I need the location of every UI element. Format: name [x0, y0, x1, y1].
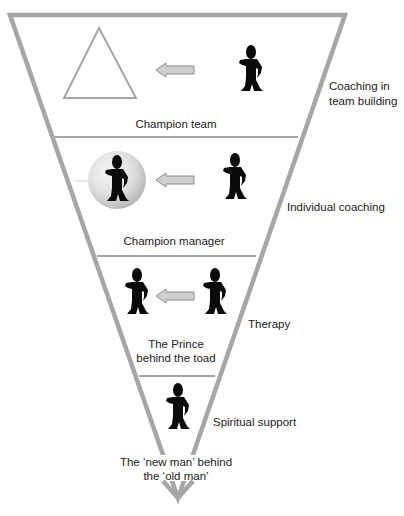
level-1-side-label-line2: team building	[329, 94, 397, 108]
level-3-caption-line1: The Prince	[148, 337, 204, 351]
person-icon	[203, 268, 227, 314]
level-1-caption: Champion team	[135, 117, 216, 131]
inverted-triangle-diagram	[0, 0, 404, 516]
level-4-side-label: Spiritual support	[213, 415, 296, 429]
team-triangle-icon	[64, 28, 136, 98]
level-3-side-label: Therapy	[248, 317, 290, 331]
level-3-caption-line2: behind the toad	[136, 351, 215, 365]
level-4-caption-line1: The ‘new man’ behind	[120, 455, 232, 469]
arrow-left-icon	[156, 63, 194, 77]
person-in-sphere-icon	[74, 151, 146, 209]
arrow-left-icon	[156, 173, 194, 187]
level-1-side-label-line1: Coaching in	[329, 79, 390, 93]
level-2-caption: Champion manager	[123, 234, 224, 248]
level-4-caption-line2: the ‘old man’	[143, 469, 208, 483]
arrow-left-icon	[156, 289, 194, 303]
person-icon	[239, 45, 263, 91]
person-icon	[223, 153, 247, 199]
person-icon	[125, 268, 149, 314]
person-icon	[166, 383, 190, 429]
level-2-side-label: Individual coaching	[287, 200, 385, 214]
